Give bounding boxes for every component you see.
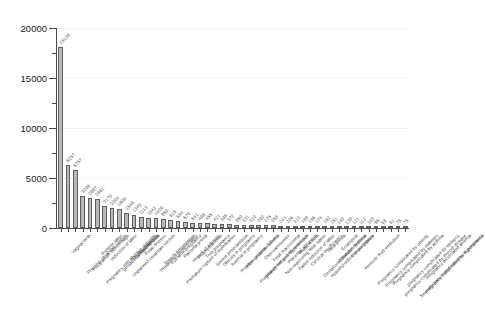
bar-rect [73,170,78,228]
bar: 162 [322,28,327,228]
x-tick [163,229,164,232]
y-tick [49,78,56,79]
bar: 1345 [132,28,137,228]
bar-series: 1813862575757320829972861217020041906154… [57,28,409,228]
bar: 75 [396,28,401,228]
x-tick [222,229,223,232]
bar-rect [271,225,276,228]
bar: 241 [278,28,283,228]
bar-rect [322,226,327,228]
x-tick [310,229,311,232]
bar: 350 [234,28,239,228]
bar-rect [190,223,195,228]
bar-rect [396,226,401,228]
y-minor-tick [52,53,56,54]
bar: 186 [308,28,313,228]
bar-rect [161,219,166,229]
y-tick [49,128,56,129]
bar: 226 [286,28,291,228]
x-tick [339,229,340,232]
bar: 1029 [154,28,159,228]
x-tick [83,229,84,232]
bar: 258 [271,28,276,228]
bar-rect [124,213,129,228]
bar: 140 [337,28,342,228]
x-tick [171,229,172,232]
bar-rect [249,225,254,228]
top-edge-artifact [205,0,219,5]
x-tick [303,229,304,232]
bar-rect [337,226,342,228]
y-tick-label: 15000 [21,73,47,84]
x-tick [75,229,76,232]
x-tick [61,229,62,232]
bar-rect [300,226,305,228]
x-tick [215,229,216,232]
bar-rect [102,206,107,228]
bar-rect [66,165,71,228]
bar: 6257 [66,28,71,228]
bar: 18138 [58,28,63,228]
y-tick-label: 0 [42,223,47,234]
bar-rect [88,198,93,228]
bar: 398 [220,28,225,228]
bar: 275 [264,28,269,228]
bar-value-label: 78 [402,218,409,225]
bar-rect [58,47,63,228]
bar-rect [242,225,247,228]
bar-rect [374,226,379,228]
bar: 130 [344,28,349,228]
bar-rect [344,226,349,228]
bar: 541 [190,28,195,228]
bar: 112 [359,28,364,228]
bar-rect [330,226,335,228]
bar-rect [212,224,217,228]
bar-rect [95,199,100,228]
x-tick [237,229,238,232]
bar: 5757 [73,28,78,228]
bar: 151 [330,28,335,228]
bar-rect [352,226,357,228]
x-category-label: Vaginal birth [70,233,91,254]
x-tick [141,229,142,232]
bar-rect [403,226,408,228]
y-tick [49,228,56,229]
x-tick [383,229,384,232]
bar: 498 [198,28,203,228]
bar-rect [264,225,269,228]
x-tick [288,229,289,232]
bar: 1113 [139,28,144,228]
bar-rect [381,226,386,228]
bar: 1042 [146,28,151,228]
bar: 212 [293,28,298,228]
bar: 3208 [80,28,85,228]
bar-rect [80,196,85,228]
y-tick [49,28,56,29]
x-tick [229,229,230,232]
y-tick-label: 20000 [21,23,47,34]
y-minor-tick [52,203,56,204]
x-tick [398,229,399,232]
bar-rect [154,218,159,228]
bar: 95 [374,28,379,228]
x-tick [347,229,348,232]
bar-rect [293,226,298,228]
bar: 81 [388,28,393,228]
y-tick-label: 5000 [26,173,47,184]
x-tick [259,229,260,232]
bar: 103 [366,28,371,228]
bar-rect [139,217,144,228]
x-tick [361,229,362,232]
bar: 78 [403,28,408,228]
bar-rect [366,226,371,228]
bar: 2997 [88,28,93,228]
bar-rect [227,224,232,228]
x-tick [97,229,98,232]
bar-rect [220,224,225,228]
x-tick [281,229,282,232]
bar: 88 [381,28,386,228]
bar: 292 [256,28,261,228]
bar-rect [256,225,261,228]
bar-value-label: 81 [388,218,395,225]
